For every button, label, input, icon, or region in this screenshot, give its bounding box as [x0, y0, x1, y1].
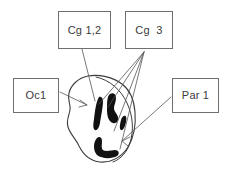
label-text-par1: Par 1 [182, 90, 209, 101]
label-text-cg3: Cg 3 [135, 25, 162, 36]
label-box-cg12[interactable]: Cg 1,2 [58, 11, 111, 49]
label-box-cg3[interactable]: Cg 3 [125, 11, 173, 49]
label-text-cg12: Cg 1,2 [68, 25, 102, 36]
figure-root: Cg 1,2 Cg 3 Oc1 Par 1 [0, 0, 228, 174]
label-box-oc1[interactable]: Oc1 [13, 78, 59, 113]
label-text-oc1: Oc1 [26, 90, 47, 101]
label-box-par1[interactable]: Par 1 [172, 78, 219, 113]
